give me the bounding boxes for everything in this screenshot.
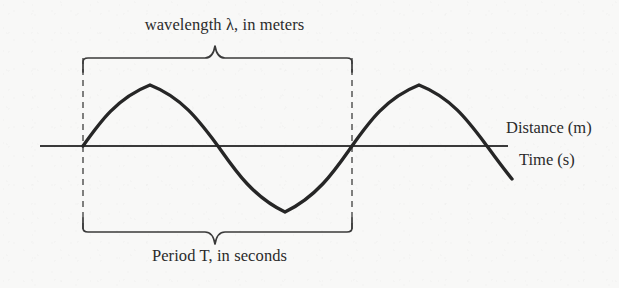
sine-wave-curve bbox=[83, 85, 512, 212]
time-axis-label: Time (s) bbox=[519, 152, 575, 169]
period-brace bbox=[83, 218, 352, 244]
wave-diagram: wavelength λ, in meters Period T, in sec… bbox=[0, 0, 619, 288]
wavelength-brace bbox=[83, 46, 352, 72]
wavelength-label: wavelength λ, in meters bbox=[0, 17, 619, 34]
distance-axis-label: Distance (m) bbox=[506, 120, 592, 137]
diagram-canvas bbox=[0, 0, 619, 288]
period-label: Period T, in seconds bbox=[0, 248, 619, 265]
